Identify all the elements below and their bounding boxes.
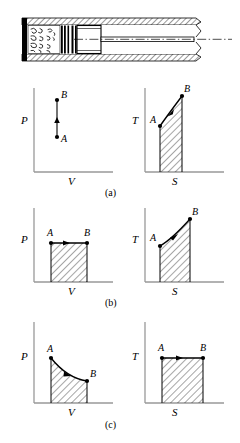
pv-a-ylabel: P — [20, 114, 28, 126]
point-a-marker — [158, 244, 162, 248]
point-b-label: B — [90, 368, 96, 379]
figure-page: P V A B T S A B (a) P V — [0, 0, 240, 443]
ts-diagram-a: T S A B — [132, 83, 224, 187]
pv-diagram-c: P V A B — [20, 322, 113, 418]
point-b-marker — [188, 217, 192, 221]
ts-diagram-b: T S A B — [132, 206, 224, 297]
caption-a: (a) — [105, 187, 116, 199]
point-b-label: B — [61, 89, 67, 100]
shaded-area — [162, 358, 203, 403]
cylinder-closed-end — [22, 18, 27, 61]
ts-a-ylabel: T — [132, 114, 139, 126]
direction-arrow — [54, 117, 60, 123]
point-b-marker — [55, 98, 59, 102]
point-a-marker — [160, 356, 164, 360]
pv-diagram-a: P V A B — [20, 88, 113, 187]
pv-c-xlabel: V — [68, 406, 76, 418]
pv-a-xlabel: V — [68, 175, 76, 187]
shaded-area — [160, 219, 190, 282]
point-b-marker — [180, 94, 184, 98]
ts-b-ylabel: T — [132, 233, 139, 245]
point-a-label: A — [60, 133, 68, 144]
pv-diagram-b: P V A B — [20, 208, 113, 297]
point-a-label: A — [149, 232, 157, 243]
ts-c-xlabel: S — [172, 406, 178, 418]
ts-diagram-c: T S A B — [132, 322, 224, 418]
point-b-marker — [85, 241, 89, 245]
gas-region — [28, 26, 60, 54]
ts-a-xlabel: S — [172, 175, 178, 187]
pv-c-ylabel: P — [20, 350, 28, 362]
point-a-label: A — [149, 114, 157, 125]
caption-b: (b) — [105, 297, 117, 309]
thermodynamics-figure: P V A B T S A B (a) P V — [0, 0, 240, 443]
shaded-area — [51, 243, 87, 282]
point-a-marker — [158, 124, 162, 128]
point-a-label: A — [46, 343, 54, 354]
direction-arrow — [64, 372, 72, 377]
point-b-marker — [85, 379, 89, 383]
pv-b-xlabel: V — [68, 285, 76, 297]
point-b-label: B — [184, 83, 190, 94]
point-b-label: B — [200, 342, 206, 353]
point-a-marker — [49, 241, 53, 245]
caption-c: (c) — [105, 419, 116, 431]
shaded-area — [160, 96, 182, 172]
ts-c-ylabel: T — [132, 350, 139, 362]
ts-b-xlabel: S — [172, 285, 178, 297]
point-b-label: B — [192, 206, 198, 217]
point-a-marker — [49, 356, 53, 360]
point-b-marker — [201, 356, 205, 360]
point-a-label: A — [46, 227, 54, 238]
point-b-label: B — [84, 227, 90, 238]
pv-b-ylabel: P — [20, 233, 28, 245]
point-a-marker — [55, 135, 59, 139]
apparatus-cylinder-piston — [22, 18, 232, 61]
point-a-label: A — [157, 342, 165, 353]
